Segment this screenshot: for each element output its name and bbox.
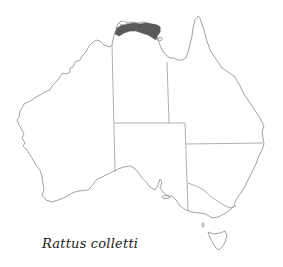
mornington-island — [158, 37, 162, 40]
species-caption: Rattus colletti — [42, 236, 138, 251]
sa-qld-nsw-border — [185, 123, 188, 210]
distribution-range — [115, 23, 160, 40]
australia-distribution-map — [0, 0, 283, 267]
qld-nsw-border — [186, 143, 263, 144]
mainland-coastline — [17, 16, 264, 218]
nt-qld-border — [167, 62, 169, 123]
wa-nt-sa-border — [112, 45, 115, 172]
bathurst-melville-islands — [119, 21, 127, 25]
kangaroo-island — [162, 196, 170, 199]
king-island — [202, 223, 204, 227]
nsw-vic-border — [188, 183, 236, 208]
tasmania — [208, 231, 227, 250]
